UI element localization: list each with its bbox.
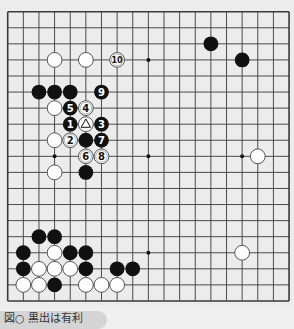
black-stone-icon (235, 53, 250, 68)
star-point-icon (146, 251, 150, 255)
white-stone (32, 261, 47, 276)
move-number-label: 5 (67, 103, 74, 114)
black-stone (78, 261, 93, 276)
black-stone (47, 229, 62, 244)
black-stone-icon (16, 261, 31, 276)
white-stone (47, 165, 62, 180)
white-stone (110, 277, 125, 292)
white-stone-icon (47, 261, 62, 276)
star-point-icon (53, 154, 57, 158)
black-stone-icon (125, 261, 140, 276)
black-stone-icon (78, 261, 93, 276)
move-number-label: 4 (82, 103, 89, 114)
black-stone (47, 85, 62, 100)
star-point-icon (146, 58, 150, 62)
white-stone-icon (32, 277, 47, 292)
black-stone (32, 229, 47, 244)
black-stone (235, 53, 250, 68)
star-point-icon (240, 154, 244, 158)
black-stone-icon (32, 85, 47, 100)
white-stone (47, 245, 62, 260)
move-number-label: 8 (98, 151, 105, 162)
black-stone-icon (203, 36, 218, 51)
white-stone-icon (47, 53, 62, 68)
black-stone (47, 277, 62, 292)
move-number-label: 10 (112, 56, 124, 65)
black-stone (203, 36, 218, 51)
white-stone-icon (47, 133, 62, 148)
black-stone (78, 245, 93, 260)
black-stone: 7 (94, 133, 109, 148)
white-stone (32, 277, 47, 292)
caption-text: 図○ 黒出は有利 (4, 312, 83, 325)
black-stone-icon (47, 229, 62, 244)
white-stone (47, 53, 62, 68)
black-stone (63, 245, 78, 260)
black-stone (32, 85, 47, 100)
white-stone-icon (32, 261, 47, 276)
white-stone (47, 261, 62, 276)
white-stone (47, 101, 62, 116)
move-number-label: 3 (98, 119, 105, 130)
white-stone (16, 277, 31, 292)
white-stone-icon (16, 277, 31, 292)
black-stone-icon (63, 245, 78, 260)
black-stone-icon (47, 85, 62, 100)
black-stone (63, 85, 78, 100)
white-stone-icon (94, 277, 109, 292)
black-stone-icon (110, 261, 125, 276)
white-stone (250, 149, 265, 164)
star-point-icon (146, 154, 150, 158)
white-stone (94, 277, 109, 292)
white-stone (78, 53, 93, 68)
black-stone-icon (78, 165, 93, 180)
black-stone-icon (78, 133, 93, 148)
black-stone (16, 245, 31, 260)
white-stone (63, 261, 78, 276)
white-stone-icon (250, 149, 265, 164)
move-number-label: 6 (82, 151, 89, 162)
black-stone (110, 261, 125, 276)
white-stone-icon (78, 53, 93, 68)
white-stone (235, 245, 250, 260)
white-stone (78, 277, 93, 292)
white-stone: 2 (63, 133, 78, 148)
white-stone-icon (47, 245, 62, 260)
black-stone (16, 261, 31, 276)
go-board: 10954132768 (0, 0, 294, 306)
white-stone-icon (47, 101, 62, 116)
black-stone: 3 (94, 117, 109, 132)
white-stone-icon (63, 261, 78, 276)
white-stone-icon (110, 277, 125, 292)
white-stone-icon (78, 277, 93, 292)
black-stone-icon (63, 85, 78, 100)
black-stone-icon (16, 245, 31, 260)
white-stone: 6 (78, 149, 93, 164)
white-stone: 4 (78, 101, 93, 116)
black-stone-icon (32, 229, 47, 244)
move-number-label: 1 (67, 119, 74, 130)
move-number-label: 2 (67, 135, 74, 146)
black-stone-icon (78, 245, 93, 260)
white-stone (47, 133, 62, 148)
black-stone: 5 (63, 101, 78, 116)
black-stone (125, 261, 140, 276)
figure-caption: 図○ 黒出は有利 (0, 311, 107, 329)
move-number-label: 7 (98, 135, 105, 146)
white-stone: 8 (94, 149, 109, 164)
board-background (0, 0, 294, 306)
black-stone: 1 (63, 117, 78, 132)
black-stone-icon (47, 277, 62, 292)
black-stone (78, 133, 93, 148)
white-stone: 10 (110, 53, 125, 68)
black-stone (78, 165, 93, 180)
move-number-label: 9 (98, 87, 105, 98)
black-stone: 9 (94, 85, 109, 100)
white-stone-icon (47, 165, 62, 180)
white-stone (78, 117, 93, 132)
white-stone-icon (235, 245, 250, 260)
